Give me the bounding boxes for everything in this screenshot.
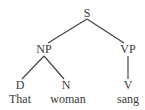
syntax-tree: S NP VP D N V That woman sang — [0, 0, 145, 110]
node-d: D — [16, 79, 25, 91]
node-n: N — [62, 79, 71, 91]
word-that: That — [9, 93, 31, 105]
node-vp: VP — [120, 43, 135, 55]
node-np: NP — [36, 43, 51, 55]
node-v: V — [124, 79, 133, 91]
edge-s-np — [48, 19, 87, 43]
edge-np-n — [44, 56, 64, 79]
word-sang: sang — [117, 93, 139, 105]
node-s: S — [84, 7, 91, 19]
edge-s-vp — [87, 19, 124, 43]
edge-np-d — [22, 56, 44, 79]
word-woman: woman — [50, 93, 85, 105]
